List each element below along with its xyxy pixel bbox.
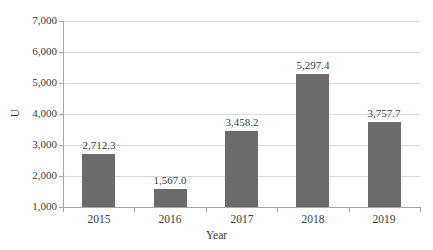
y-axis-tick-label: 4,000 bbox=[9, 108, 57, 119]
y-axis-tick-label: 1,000 bbox=[9, 201, 57, 212]
gridline bbox=[63, 21, 420, 22]
x-axis-category-label-2017: 2017 bbox=[207, 213, 277, 226]
x-axis-tick bbox=[134, 207, 135, 212]
bar-value-label-2016: 1,567.0 bbox=[130, 175, 210, 186]
x-axis-category-label-2018: 2018 bbox=[278, 213, 348, 226]
bar-value-label-2019: 3,757.7 bbox=[344, 108, 424, 119]
y-axis-tick-label: 2,000 bbox=[9, 170, 57, 181]
x-axis-tick bbox=[420, 207, 421, 212]
y-axis-tick-label: 5,000 bbox=[9, 77, 57, 88]
bar-value-label-2018: 5,297.4 bbox=[273, 60, 353, 71]
x-axis-tick bbox=[206, 207, 207, 212]
x-axis-tick bbox=[277, 207, 278, 212]
x-axis-tick bbox=[63, 207, 64, 212]
y-axis-line bbox=[63, 21, 64, 208]
x-axis-title: Year bbox=[0, 229, 433, 242]
x-axis-category-label-2016: 2016 bbox=[135, 213, 205, 226]
x-axis-category-label-2019: 2019 bbox=[349, 213, 419, 226]
bar-2016 bbox=[154, 189, 187, 207]
gridline bbox=[63, 52, 420, 53]
bar-2017 bbox=[225, 131, 258, 207]
y-axis-tick-label: 7,000 bbox=[9, 15, 57, 26]
x-axis-tick bbox=[349, 207, 350, 212]
y-axis-tick-label: 3,000 bbox=[9, 139, 57, 150]
bar-chart: U 1,0002,0003,0004,0005,0006,0007,000 2,… bbox=[0, 0, 433, 250]
bar-value-label-2015: 2,712.3 bbox=[59, 140, 139, 151]
gridline bbox=[63, 83, 420, 84]
y-axis-tick-label: 6,000 bbox=[9, 46, 57, 57]
bar-2015 bbox=[82, 154, 115, 207]
bar-2019 bbox=[368, 122, 401, 207]
x-axis-category-label-2015: 2015 bbox=[64, 213, 134, 226]
x-axis-line bbox=[63, 207, 421, 208]
bar-value-label-2017: 3,458.2 bbox=[202, 117, 282, 128]
bar-2018 bbox=[296, 74, 329, 207]
